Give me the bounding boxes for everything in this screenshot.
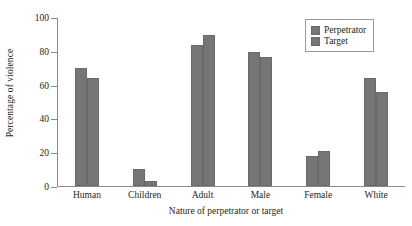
y-tick-0 (51, 187, 57, 188)
bar-adult-perpetrator (191, 45, 203, 186)
x-tick-label-human: Human (58, 190, 116, 200)
bar-female-perpetrator (306, 156, 318, 186)
x-tick-label-children: Children (116, 190, 174, 200)
bar-chart: Percentage of violence 0 20 40 60 80 100… (0, 0, 412, 226)
bar-white-perpetrator (364, 78, 376, 186)
x-tick-label-male: Male (231, 190, 289, 200)
bar-male-perpetrator (248, 52, 260, 186)
bar-group-male (231, 18, 289, 186)
y-tick-100 (51, 18, 57, 19)
y-tick-40 (51, 119, 57, 120)
y-tick-label-80: 80 (9, 47, 49, 57)
y-tick-60 (51, 86, 57, 87)
legend-item-target: Target (311, 36, 366, 46)
y-tick-20 (51, 153, 57, 154)
bar-human-target (87, 78, 99, 186)
bar-group-adult (174, 18, 232, 186)
chart-legend: Perpetrator Target (305, 19, 374, 52)
bar-children-perpetrator (133, 169, 145, 186)
x-tick-label-white: White (347, 190, 405, 200)
legend-label-perpetrator: Perpetrator (324, 25, 366, 35)
bar-human-perpetrator (75, 68, 87, 186)
y-tick-label-40: 40 (9, 114, 49, 124)
x-tick-label-adult: Adult (174, 190, 232, 200)
y-tick-label-0: 0 (9, 182, 49, 192)
bar-white-target (376, 92, 388, 186)
y-tick-label-20: 20 (9, 148, 49, 158)
x-axis-title: Nature of perpetrator or target (0, 206, 412, 216)
y-tick-label-100: 100 (9, 13, 49, 23)
bar-group-children (116, 18, 174, 186)
legend-swatch-target (311, 37, 320, 46)
bar-adult-target (203, 35, 215, 186)
x-axis-tick-labels: Human Children Adult Male Female White (58, 190, 405, 200)
x-axis-line (57, 186, 405, 187)
bar-group-human (58, 18, 116, 186)
y-tick-label-60: 60 (9, 81, 49, 91)
bar-male-target (260, 57, 272, 186)
x-tick-label-female: Female (289, 190, 347, 200)
bar-female-target (318, 151, 330, 186)
legend-swatch-perpetrator (311, 26, 320, 35)
y-tick-80 (51, 52, 57, 53)
legend-label-target: Target (324, 36, 348, 46)
bar-children-target (145, 181, 157, 186)
legend-item-perpetrator: Perpetrator (311, 25, 366, 35)
